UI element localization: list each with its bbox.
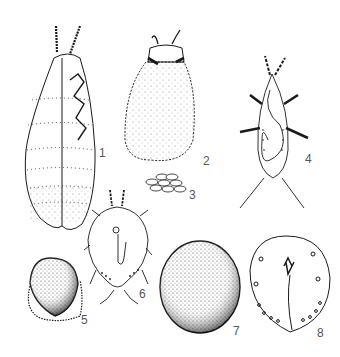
figure-label-3: 3 — [189, 189, 196, 201]
figure-8-adult-female — [250, 236, 330, 332]
figure-label-8: 8 — [317, 327, 324, 339]
figure-1-elongate-female — [25, 26, 95, 230]
figure-7-oval-scale — [160, 241, 240, 333]
figure-5-scale — [28, 258, 82, 321]
illustration-plate — [0, 0, 340, 357]
figure-label-4: 4 — [305, 153, 312, 165]
figure-label-2: 2 — [203, 155, 210, 167]
figure-3-egg-cluster — [146, 174, 186, 192]
figure-label-1: 1 — [99, 147, 106, 159]
figure-label-5: 5 — [81, 314, 88, 326]
figure-4-crawler — [240, 56, 308, 208]
figure-label-7: 7 — [233, 325, 240, 337]
figure-label-6: 6 — [139, 288, 146, 300]
figure-2-hairy-female — [125, 30, 194, 161]
